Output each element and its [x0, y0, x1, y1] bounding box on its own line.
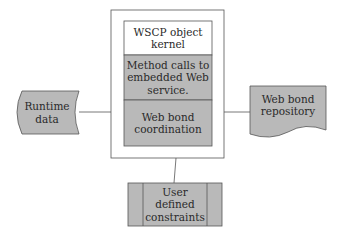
runtime-data-label: Runtime data [17, 91, 77, 134]
constraints-line-1: User defined [143, 186, 207, 211]
method-calls-line-1: Method calls to [127, 59, 209, 72]
repository-label: Web bond repository [250, 88, 326, 122]
constraints-line-2: constraints [145, 211, 205, 224]
coordination-label: Web bond coordination [124, 100, 212, 146]
runtime-data-line-2: data [35, 113, 58, 126]
connector-central-to-constraints [174, 158, 176, 183]
method-calls-line-2: embedded Web [127, 71, 209, 84]
repository-line-2: repository [261, 105, 316, 118]
kernel-label: WSCP object kernel [124, 21, 212, 55]
repository-line-1: Web bond [262, 93, 315, 106]
kernel-label-line-2: kernel [151, 38, 185, 51]
runtime-data-line-1: Runtime [24, 100, 69, 113]
method-calls-label: Method calls to embedded Web service. [124, 55, 212, 100]
method-calls-line-3: service. [147, 84, 188, 97]
kernel-label-line-1: WSCP object [133, 26, 202, 39]
coordination-line-2: coordination [134, 123, 201, 136]
constraints-label: User defined constraints [143, 183, 207, 226]
coordination-line-1: Web bond [142, 111, 195, 124]
